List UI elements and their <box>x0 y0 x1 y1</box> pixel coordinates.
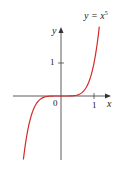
plot-area <box>0 0 119 171</box>
x-axis-label: x <box>107 99 111 109</box>
y-tick-label-1: 1 <box>50 58 55 67</box>
curve-label: y = x5 <box>84 10 108 21</box>
curve-label-text: y = x <box>84 10 105 21</box>
y-axis-arrow-icon <box>59 27 64 33</box>
y-axis-label: y <box>52 26 56 36</box>
x-tick-label-1: 1 <box>92 101 97 110</box>
curve-label-exponent: 5 <box>105 10 108 16</box>
origin-label: 0 <box>53 99 58 108</box>
